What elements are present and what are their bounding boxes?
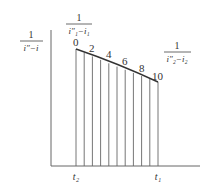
svg-text:1: 1: [29, 29, 34, 40]
svg-text:1: 1: [77, 12, 82, 23]
x-tick-t2: t₂: [73, 171, 80, 182]
point-label-6: 6: [122, 55, 128, 67]
point-label-8: 8: [139, 62, 145, 74]
right-curve-label: 1 i″₂−i₂: [164, 40, 191, 64]
point-label-0: 0: [73, 36, 79, 48]
point-label-4: 4: [106, 48, 112, 60]
svg-text:i″₁−i₁: i″₁−i₁: [68, 26, 89, 36]
top-curve-label: 1 i″₁−i₁: [66, 12, 92, 36]
svg-text:i″−i: i″−i: [24, 43, 39, 53]
svg-text:i″₂−i₂: i″₂−i₂: [166, 54, 187, 64]
integration-diagram: 0 2 4 6 8 10 1 i″−i 1 i″₁−i₁ 1 i″₂−i₂ t₂…: [0, 0, 211, 191]
y-axis-label: 1 i″−i: [20, 29, 43, 53]
svg-text:1: 1: [175, 40, 180, 51]
vertical-strips: [76, 49, 158, 166]
x-tick-t1: t₁: [155, 171, 161, 182]
point-label-10: 10: [152, 70, 164, 82]
point-label-2: 2: [89, 42, 95, 54]
